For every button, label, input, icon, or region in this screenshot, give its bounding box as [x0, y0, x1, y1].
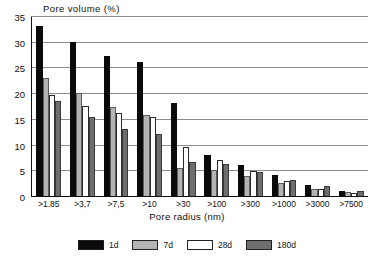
bar-group [234, 17, 268, 196]
legend-label: 7d [163, 240, 172, 250]
bar [89, 117, 95, 196]
x-tick-label: >10 [133, 199, 167, 211]
y-tick-30: 30 [14, 37, 25, 48]
y-tick-0: 0 [20, 192, 25, 203]
x-axis-title: Pore radius (nm) [0, 211, 374, 222]
legend-swatch-7d [132, 240, 158, 250]
bar-group [99, 17, 133, 196]
bar-group [133, 17, 167, 196]
x-tick-label: >1000 [267, 199, 301, 211]
y-axis-line [31, 17, 32, 197]
bar-group [166, 17, 200, 196]
plot-area [31, 17, 368, 197]
bar [55, 101, 61, 196]
bar [189, 162, 195, 196]
chart-legend: 1d7d28d180d [0, 240, 374, 250]
bar-group [32, 17, 66, 196]
bar-group [66, 17, 100, 196]
bar-group [267, 17, 301, 196]
legend-swatch-28d [187, 240, 213, 250]
legend-swatch-1d [78, 240, 104, 250]
chart-title: Pore volume (%) [43, 3, 120, 14]
y-tick-15: 15 [14, 114, 25, 125]
y-tick-20: 20 [14, 89, 25, 100]
bar-group [200, 17, 234, 196]
bar-group [301, 17, 335, 196]
legend-item-1d[interactable]: 1d [78, 240, 118, 250]
x-tick-label: >100 [200, 199, 234, 211]
x-tick-label: >7500 [334, 199, 368, 211]
bar [156, 134, 162, 196]
x-tick-label: >3000 [301, 199, 335, 211]
bar [122, 129, 128, 196]
bar [290, 180, 296, 196]
legend-label: 1d [109, 240, 118, 250]
y-tick-5: 5 [20, 166, 25, 177]
x-axis-tick-labels: >1.85>3,7>7,5>10>30>100>300>1000>3000>75… [32, 199, 368, 211]
y-tick-25: 25 [14, 63, 25, 74]
legend-item-180d[interactable]: 180d [246, 240, 296, 250]
legend-item-28d[interactable]: 28d [187, 240, 232, 250]
legend-item-7d[interactable]: 7d [132, 240, 172, 250]
x-tick-label: >7,5 [99, 199, 133, 211]
bar [223, 164, 229, 196]
y-axis-tick-labels: 05101520253035 [0, 17, 29, 197]
legend-swatch-180d [246, 240, 272, 250]
legend-label: 180d [277, 240, 296, 250]
y-tick-10: 10 [14, 140, 25, 151]
x-axis-line [31, 196, 368, 197]
x-tick-label: >30 [166, 199, 200, 211]
x-tick-label: >300 [234, 199, 268, 211]
bar-groups [32, 17, 368, 196]
bar-group [334, 17, 368, 196]
bar [257, 172, 263, 196]
bar [324, 186, 330, 196]
y-tick-35: 35 [14, 12, 25, 23]
chart-figure: Pore volume (%) 05101520253035 >1.85>3,7… [0, 0, 374, 264]
legend-label: 28d [218, 240, 232, 250]
x-tick-label: >3,7 [66, 199, 100, 211]
x-tick-label: >1.85 [32, 199, 66, 211]
